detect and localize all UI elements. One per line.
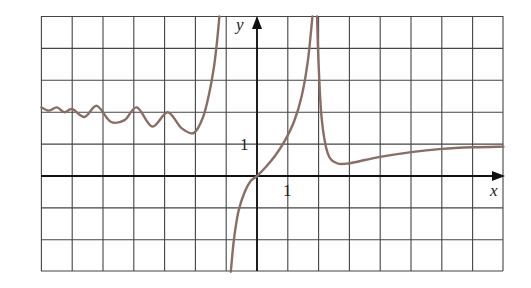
function-graph: y x 1 1	[0, 0, 531, 288]
x-axis-label: x	[489, 181, 498, 200]
y-axis-arrow-icon	[252, 16, 262, 29]
x-tick-label: 1	[283, 181, 292, 200]
axes	[41, 16, 505, 271]
y-tick-label: 1	[240, 135, 249, 154]
function-curve	[317, 17, 503, 165]
grid-lines	[41, 16, 503, 271]
y-axis-label: y	[234, 15, 244, 34]
function-curve	[41, 17, 219, 134]
